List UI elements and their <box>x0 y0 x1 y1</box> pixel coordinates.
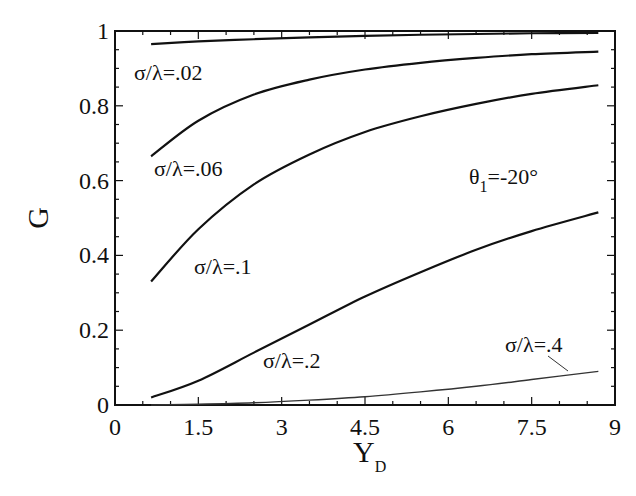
label-series-01: σ/λ=.1 <box>194 254 252 279</box>
y-tick-label: 1 <box>97 18 109 44</box>
angle-value: =-20° <box>488 164 539 189</box>
y-tick-label: 0.4 <box>79 242 109 268</box>
leader-line-series-04 <box>548 356 568 371</box>
angle-annotation: θ1=-20° <box>469 164 538 195</box>
label-series-04: σ/λ=.4 <box>505 332 563 357</box>
label-series-002: σ/λ=.02 <box>134 60 203 85</box>
chart: 01.534.567.59 00.20.40.60.81 σ/λ=.02 σ/λ… <box>0 0 636 496</box>
x-tick-label: 1.5 <box>183 414 213 440</box>
x-tick-label: 0 <box>109 414 121 440</box>
y-tick-label: 0.8 <box>79 93 109 119</box>
x-tick-label: 7.5 <box>517 414 547 440</box>
x-tick-label: 3 <box>276 414 288 440</box>
y-tick-label: 0 <box>97 392 109 418</box>
x-tick-label: 6 <box>442 414 454 440</box>
angle-subscript: 1 <box>480 178 488 195</box>
x-axis-label-main: Y <box>353 435 375 468</box>
y-tick-labels: 00.20.40.60.81 <box>79 18 109 418</box>
label-series-02: σ/λ=.2 <box>263 348 321 373</box>
y-tick-label: 0.6 <box>79 168 109 194</box>
x-tick-label: 9 <box>609 414 621 440</box>
x-axis-label: YD <box>353 435 386 475</box>
series-line <box>151 212 598 397</box>
angle-symbol: θ <box>469 164 480 189</box>
y-tick-label: 0.2 <box>79 317 109 343</box>
label-series-006: σ/λ=.06 <box>154 156 223 181</box>
y-axis-label: G <box>21 207 54 229</box>
series-line <box>151 52 598 157</box>
x-axis-label-sub: D <box>375 458 387 475</box>
